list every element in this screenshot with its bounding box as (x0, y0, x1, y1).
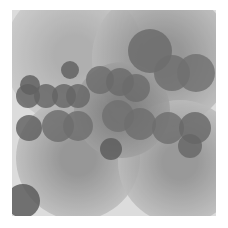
dark-circle-9 (122, 74, 150, 102)
dark-circle-1 (61, 61, 79, 79)
dark-circle-19 (178, 134, 202, 158)
dark-circle-15 (16, 115, 42, 141)
dark-circle-6 (66, 84, 90, 108)
dark-circle-20 (100, 138, 122, 160)
dark-circle-16 (124, 108, 156, 140)
dark-circle-14 (63, 111, 93, 141)
dark-circle-11 (177, 54, 215, 92)
gradient-circle-field (12, 10, 216, 216)
